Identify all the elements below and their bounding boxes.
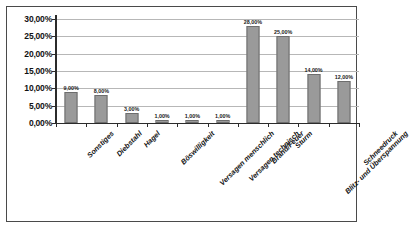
bar-value-label: 3,00%: [124, 106, 139, 112]
y-tick-label: 15,00%: [24, 66, 52, 76]
bar[interactable]: [337, 81, 350, 123]
y-tick-label: 10,00%: [24, 83, 52, 93]
bar[interactable]: [65, 92, 78, 123]
bar-value-label: 14,00%: [304, 67, 322, 73]
plot-area: 9,00%8,00%3,00%1,00%1,00%1,00%28,00%25,0…: [56, 19, 359, 123]
bar-slot: 14,00%: [298, 19, 328, 123]
bar-value-label: 9,00%: [63, 85, 78, 91]
bar-value-label: 1,00%: [215, 113, 230, 119]
y-axis-labels: 30,00%25,00%20,00%15,00%10,00%5,00%0,00%: [7, 19, 52, 123]
x-tick-mark: [359, 123, 360, 127]
bar-value-label: 28,00%: [244, 19, 262, 25]
y-tick-label: 0,00%: [29, 118, 52, 128]
x-category-label: Sonstiges: [85, 129, 116, 160]
bar[interactable]: [277, 36, 290, 123]
bar-slot: 1,00%: [208, 19, 238, 123]
x-category-label-text: Diebstahl: [115, 129, 144, 158]
bar[interactable]: [246, 26, 259, 123]
bar-slot: 1,00%: [177, 19, 207, 123]
x-category-label-text: Blitz- und Überspannung: [343, 129, 409, 196]
y-tick-label: 30,00%: [24, 14, 52, 24]
x-category-label-text: Böswilligkeit: [179, 129, 216, 166]
x-category-label-text: Hagel: [141, 129, 161, 149]
bar-value-label: 1,00%: [154, 113, 169, 119]
bar-slot: 25,00%: [268, 19, 298, 123]
bar-slot: 8,00%: [86, 19, 116, 123]
x-axis-category-labels: SonstigesDiebstahlHagelBöswilligkeitVers…: [56, 123, 359, 218]
bar[interactable]: [307, 74, 320, 123]
bar-slot: 1,00%: [147, 19, 177, 123]
x-category-label: Hagel: [141, 129, 161, 149]
x-category-label: Böswilligkeit: [179, 129, 216, 166]
bar[interactable]: [125, 113, 138, 123]
y-tick-label: 25,00%: [24, 31, 52, 41]
x-category-label: Diebstahl: [115, 129, 144, 158]
bar-slot: 28,00%: [238, 19, 268, 123]
bar-value-label: 1,00%: [185, 113, 200, 119]
bar-value-label: 25,00%: [274, 29, 292, 35]
x-category-label-text: Sonstiges: [85, 129, 116, 160]
chart-frame: 30,00%25,00%20,00%15,00%10,00%5,00%0,00%…: [6, 6, 357, 222]
bar-value-label: 8,00%: [94, 88, 109, 94]
bar-slot: 12,00%: [329, 19, 359, 123]
y-tick-label: 5,00%: [29, 101, 52, 111]
bar[interactable]: [95, 95, 108, 123]
y-tick-label: 20,00%: [24, 49, 52, 59]
bar-slot: 9,00%: [56, 19, 86, 123]
bar-slot: 3,00%: [117, 19, 147, 123]
bar-value-label: 12,00%: [335, 74, 353, 80]
x-category-label: Blitz- und Überspannung: [343, 129, 409, 196]
